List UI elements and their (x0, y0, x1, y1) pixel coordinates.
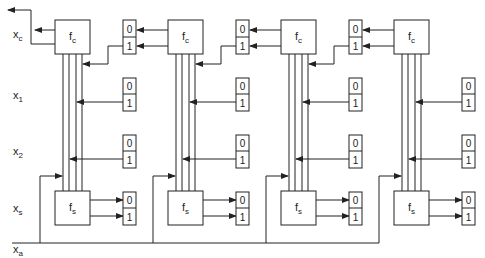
bit-0: 0 (240, 195, 246, 206)
x2-register: 0 1 (349, 135, 362, 168)
bit-0: 0 (353, 24, 359, 35)
bit-1: 1 (240, 98, 246, 109)
column-1: fc 0 1 0 1 0 1 (40, 20, 136, 243)
x1-register: 0 1 (349, 78, 362, 111)
carry-register: 0 1 (123, 20, 136, 54)
bit-0: 0 (466, 81, 472, 92)
bit-1: 1 (127, 98, 133, 109)
bit-1: 1 (353, 41, 359, 52)
bit-0: 0 (466, 138, 472, 149)
bit-1: 1 (127, 41, 133, 52)
bit-0: 0 (127, 195, 133, 206)
sum-register: 0 1 (236, 192, 249, 225)
bit-0: 0 (466, 195, 472, 206)
bit-0: 0 (353, 195, 359, 206)
bit-1: 1 (353, 155, 359, 166)
x2-register: 0 1 (236, 135, 249, 168)
column-3: fc 0 1 0 1 0 1 fs (250, 20, 362, 243)
sum-register: 0 1 (462, 192, 475, 225)
carry-register: 0 1 (236, 20, 249, 54)
bit-1: 1 (240, 155, 246, 166)
bit-0: 0 (127, 81, 133, 92)
bit-1: 1 (353, 212, 359, 223)
row-label-x1: x1 (13, 89, 24, 104)
column-4: fc 0 1 0 1 fs 0 1 (363, 20, 475, 243)
bit-1: 1 (353, 98, 359, 109)
column-2: fc 0 1 0 1 0 1 fs (137, 20, 249, 243)
row-label-x2: x2 (13, 145, 24, 160)
bit-1: 1 (127, 155, 133, 166)
bit-0: 0 (127, 138, 133, 149)
bit-0: 0 (353, 81, 359, 92)
bit-0: 0 (353, 138, 359, 149)
sum-register: 0 1 (123, 192, 136, 225)
bit-1: 1 (466, 155, 472, 166)
carry-register: 0 1 (349, 20, 362, 54)
x1-register: 0 1 (236, 78, 249, 111)
bit-0: 0 (127, 24, 133, 35)
bit-0: 0 (240, 81, 246, 92)
row-label-xs: xs (13, 202, 23, 217)
bit-0: 0 (240, 24, 246, 35)
x2-register: 0 1 (462, 135, 475, 168)
x1-register: 0 1 (123, 78, 136, 111)
sum-register: 0 1 (349, 192, 362, 225)
bit-1: 1 (466, 98, 472, 109)
bit-1: 1 (127, 212, 133, 223)
bit-1: 1 (240, 41, 246, 52)
bit-1: 1 (466, 212, 472, 223)
bit-1: 1 (240, 212, 246, 223)
x2-register: 0 1 (123, 135, 136, 168)
bit-0: 0 (240, 138, 246, 149)
row-label-xa: xa (13, 243, 24, 258)
x1-register: 0 1 (462, 78, 475, 111)
row-label-xc: xc (13, 28, 23, 43)
adder-circuit-diagram: xc x1 x2 xs xa fc 0 1 0 1 (0, 0, 485, 258)
